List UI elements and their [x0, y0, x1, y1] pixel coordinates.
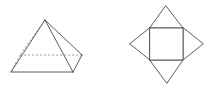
net-triangle-right: [183, 28, 203, 60]
net-triangle-bottom: [150, 60, 183, 83]
net-square-base: [150, 28, 183, 60]
square-pyramid-net: [130, 6, 203, 83]
net-triangle-left: [130, 28, 150, 60]
edge-apex-to-back-right: [45, 20, 82, 55]
geometry-figure-svg: [0, 0, 220, 88]
geometry-figure-canvas: Square pyramid and its net Square pyrami…: [0, 0, 220, 88]
square-pyramid-3d: [11, 20, 82, 72]
net-triangle-top: [150, 6, 183, 28]
